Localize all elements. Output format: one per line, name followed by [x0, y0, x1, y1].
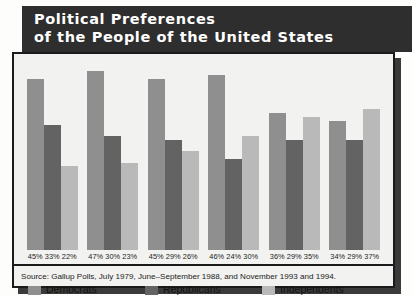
value-labels-row: 45%33%22%47%30%23%45%29%26%46%24%30%36%2…: [14, 250, 393, 263]
bar-dem-1970: [148, 79, 165, 250]
bar-rep-1960: [104, 136, 121, 250]
value-group-1980: 46%24%30%: [204, 250, 265, 263]
title-banner: Political Preferences of the People of t…: [22, 6, 412, 52]
value-group-1960: 47%30%23%: [83, 250, 144, 263]
chart-card: 45%33%22%47%30%23%45%29%26%46%24%30%36%2…: [12, 52, 395, 288]
value-rep-1960: 30%: [104, 250, 121, 263]
bar-groups: [22, 60, 385, 250]
bar-ind-1990: [303, 117, 320, 250]
value-dem-1970: 45%: [148, 250, 165, 263]
bar-dem-1980: [208, 75, 225, 250]
value-ind-1980: 30%: [242, 250, 259, 263]
bar-rep-1970: [165, 140, 182, 250]
value-group-1970: 45%29%26%: [143, 250, 204, 263]
value-dem-1994: 34%: [329, 250, 346, 263]
value-ind-1990: 35%: [303, 250, 320, 263]
value-group-1950: 45%33%22%: [22, 250, 83, 263]
bar-dem-1960: [87, 71, 104, 250]
value-rep-1990: 29%: [286, 250, 303, 263]
bar-dem-1950: [27, 79, 44, 250]
plot-area: [14, 54, 393, 250]
bar-group-1980: [204, 60, 265, 250]
source-panel: Source: Gallup Polls, July 1979, June–Se…: [14, 264, 393, 286]
value-rep-1994: 29%: [346, 250, 363, 263]
value-ind-1950: 22%: [61, 250, 78, 263]
value-dem-1960: 47%: [87, 250, 104, 263]
bar-dem-1994: [329, 121, 346, 250]
chart-page: Political Preferences of the People of t…: [0, 0, 412, 296]
value-group-1990: 36%29%35%: [264, 250, 325, 263]
bar-group-1950: [22, 60, 83, 250]
value-dem-1990: 36%: [269, 250, 286, 263]
bar-rep-1990: [286, 140, 303, 250]
bar-ind-1970: [182, 151, 199, 250]
bar-group-1970: [143, 60, 204, 250]
bar-group-1990: [264, 60, 325, 250]
value-group-1994: 34%29%37%: [325, 250, 386, 263]
bar-ind-1980: [242, 136, 259, 250]
bar-rep-1994: [346, 140, 363, 250]
title-line-2: of the People of the United States: [34, 29, 412, 47]
source-text: Source: Gallup Polls, July 1979, June–Se…: [21, 272, 336, 281]
bar-ind-1950: [61, 166, 78, 250]
value-ind-1970: 26%: [182, 250, 199, 263]
value-rep-1970: 29%: [165, 250, 182, 263]
bar-ind-1994: [363, 109, 380, 250]
bar-group-1960: [83, 60, 144, 250]
value-dem-1980: 46%: [208, 250, 225, 263]
title-line-1: Political Preferences: [34, 11, 412, 29]
bar-group-1994: [325, 60, 386, 250]
value-ind-1994: 37%: [363, 250, 380, 263]
value-rep-1980: 24%: [225, 250, 242, 263]
card-shadow-right: [395, 58, 401, 294]
bar-rep-1980: [225, 159, 242, 250]
value-ind-1960: 23%: [121, 250, 138, 263]
value-dem-1950: 45%: [27, 250, 44, 263]
bar-ind-1960: [121, 163, 138, 250]
bar-rep-1950: [44, 125, 61, 250]
bar-dem-1990: [269, 113, 286, 250]
value-rep-1950: 33%: [44, 250, 61, 263]
